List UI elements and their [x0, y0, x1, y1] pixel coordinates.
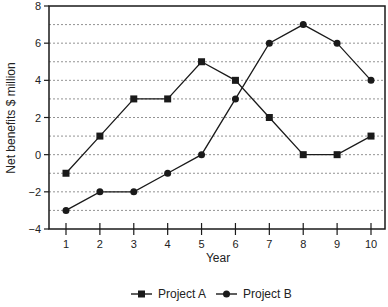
x-tick-label: 2 [97, 238, 103, 250]
gridlines [49, 25, 385, 211]
circle-marker [232, 95, 239, 102]
circle-marker [368, 77, 375, 84]
y-tick-label: 4 [35, 74, 41, 86]
circle-marker [96, 188, 103, 195]
square-marker [198, 58, 205, 65]
y-tick-label: −2 [28, 186, 41, 198]
x-axis-ticks: 12345678910 [63, 223, 377, 250]
circle-marker [334, 40, 341, 47]
x-tick-label: 10 [365, 238, 377, 250]
y-axis-ticks: −4−202468 [28, 0, 49, 235]
circle-marker [300, 21, 307, 28]
circle-marker [164, 170, 171, 177]
y-axis-label: Net benefits $ million [4, 62, 18, 173]
y-tick-label: 2 [35, 112, 41, 124]
circle-marker [198, 151, 205, 158]
square-marker [368, 133, 375, 140]
square-marker [334, 151, 341, 158]
circle-marker [266, 40, 273, 47]
x-tick-label: 8 [300, 238, 306, 250]
square-marker [266, 114, 273, 121]
x-tick-label: 4 [165, 238, 171, 250]
legend-square-icon [138, 291, 145, 298]
x-tick-label: 7 [266, 238, 272, 250]
legend: Project AProject B [131, 287, 292, 301]
square-marker [164, 95, 171, 102]
x-tick-label: 5 [198, 238, 204, 250]
circle-marker [130, 188, 137, 195]
x-tick-label: 1 [63, 238, 69, 250]
legend-item-project-a: Project A [131, 287, 206, 301]
y-tick-label: 6 [35, 37, 41, 49]
legend-label: Project A [158, 287, 206, 301]
square-marker [130, 95, 137, 102]
x-axis-label: Year [206, 251, 230, 265]
x-tick-label: 6 [232, 238, 238, 250]
circle-marker [63, 207, 70, 214]
square-marker [96, 133, 103, 140]
y-tick-label: 8 [35, 0, 41, 12]
square-marker [63, 170, 70, 177]
square-marker [232, 77, 239, 84]
line-chart: −4−202468 12345678910 Net benefits $ mil… [0, 0, 388, 307]
x-tick-label: 9 [334, 238, 340, 250]
legend-circle-icon [223, 291, 230, 298]
legend-label: Project B [243, 287, 292, 301]
y-tick-label: 0 [35, 149, 41, 161]
legend-item-project-b: Project B [216, 287, 292, 301]
x-tick-label: 3 [131, 238, 137, 250]
y-tick-label: −4 [28, 223, 41, 235]
square-marker [300, 151, 307, 158]
